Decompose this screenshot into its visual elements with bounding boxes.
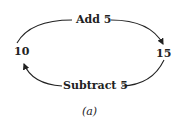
edge-label-subtract: Subtract 5 <box>63 80 128 92</box>
arc-bottom-right <box>122 60 164 86</box>
caption: (a) <box>82 105 97 118</box>
arc-bottom-left <box>24 64 62 86</box>
arc-top-left <box>17 20 72 43</box>
edge-label-add: Add 5 <box>76 14 111 26</box>
node-10: 10 <box>14 46 29 58</box>
node-15: 15 <box>156 48 171 60</box>
arc-top-right <box>111 20 163 44</box>
